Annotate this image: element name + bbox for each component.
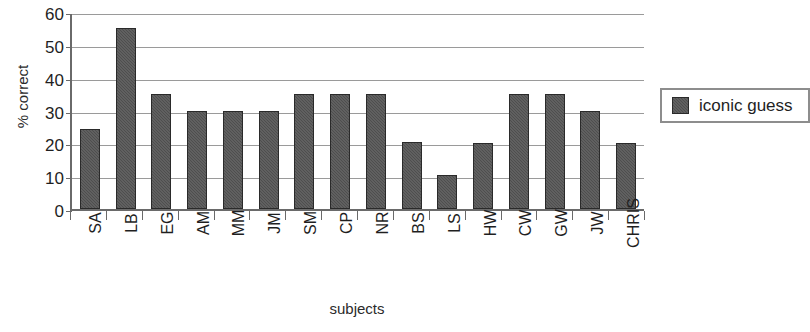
y-axis-tick-label: 60 [30, 6, 64, 23]
y-axis-tick-mark [66, 14, 72, 15]
x-label-slot: GW [536, 221, 572, 291]
x-axis-tick-mark [429, 211, 430, 220]
y-axis-tick-mark [66, 113, 72, 114]
x-label-slot: HW [465, 221, 501, 291]
bar [116, 28, 136, 209]
x-label-slot: JM [249, 221, 285, 291]
x-axis-tick-mark [536, 211, 537, 220]
x-axis-tick-mark [393, 211, 394, 220]
bar [330, 94, 350, 209]
y-axis-tick-mark [66, 47, 72, 48]
x-label-slot: SM [285, 221, 321, 291]
x-axis-tick-label: LS [447, 213, 463, 233]
x-label-slot: NR [357, 221, 393, 291]
bar [80, 129, 100, 209]
plot-area [70, 14, 644, 211]
bar-slot [251, 14, 287, 209]
x-axis-tick-label: LB [124, 213, 140, 233]
x-axis-tick-mark [572, 211, 573, 220]
bar-slot [501, 14, 537, 209]
x-axis-tick-label: SA [88, 212, 104, 233]
x-axis-tick-label: JM [267, 212, 283, 233]
bar-slot [287, 14, 323, 209]
bars-layer [72, 14, 644, 209]
bar [366, 94, 386, 209]
legend-swatch-icon [672, 97, 689, 114]
x-axis-tick-mark [106, 211, 107, 220]
bar [223, 111, 243, 210]
x-axis-tick-mark [357, 211, 358, 220]
x-axis-tick-label: BS [411, 212, 427, 233]
legend-label: iconic guess [699, 97, 793, 114]
bar [259, 111, 279, 210]
y-axis-tick-label: 50 [30, 39, 64, 56]
bar-slot [430, 14, 466, 209]
x-axis-tick-mark [465, 211, 466, 220]
x-axis-tick-mark [178, 211, 179, 220]
x-label-slot: CW [501, 221, 537, 291]
x-axis-tick-mark [285, 211, 286, 220]
x-label-slot: CP [321, 221, 357, 291]
y-axis-tick-label: 40 [30, 72, 64, 89]
x-axis-tick-mark [249, 211, 250, 220]
legend: iconic guess [660, 88, 810, 123]
bar-slot [144, 14, 180, 209]
x-axis-tick-label: CHRIS [626, 198, 642, 248]
bar [402, 142, 422, 209]
bar-slot [322, 14, 358, 209]
y-axis-tick-labels: 6050403020100 [28, 0, 64, 332]
y-axis-tick-label: 30 [30, 105, 64, 122]
y-axis-tick-label: 0 [30, 203, 64, 220]
bar-slot [537, 14, 573, 209]
bar [473, 143, 493, 209]
bar [437, 175, 457, 209]
x-axis-tick-label: NR [375, 211, 391, 234]
x-axis-tick-mark [70, 211, 71, 220]
x-axis-tick-label: GW [554, 209, 570, 237]
x-label-slot: JW [572, 221, 608, 291]
bar-slot [108, 14, 144, 209]
bar-slot [465, 14, 501, 209]
x-axis-tick-label: JW [590, 211, 606, 234]
x-axis-tick-mark [501, 211, 502, 220]
x-axis-tick-label: SM [303, 211, 319, 235]
bar [187, 111, 207, 210]
x-label-slot: MM [214, 221, 250, 291]
x-axis-tick-label: MM [231, 210, 247, 237]
bar-slot [394, 14, 430, 209]
bar [545, 94, 565, 209]
x-label-slot: CHRIS [608, 221, 644, 291]
x-label-slot: EG [142, 221, 178, 291]
y-axis-tick-label: 20 [30, 137, 64, 154]
x-label-slot: LB [106, 221, 142, 291]
x-axis-tick-mark [608, 211, 609, 220]
bar-slot [608, 14, 644, 209]
x-axis-tick-mark [644, 211, 645, 220]
x-axis-tick-mark [214, 211, 215, 220]
x-label-slot: AM [178, 221, 214, 291]
x-axis-tick-label: CW [518, 210, 534, 237]
y-axis-tick-mark [66, 80, 72, 81]
y-axis-tick-mark [66, 145, 72, 146]
x-axis-tick-labels: SALBEGAMMMJMSMCPNRBSLSHWCWGWJWCHRIS [70, 221, 644, 291]
y-axis-tick-mark [66, 178, 72, 179]
x-axis-tick-label: EG [160, 211, 176, 234]
x-axis-tick-label: CP [339, 212, 355, 234]
x-label-slot: LS [429, 221, 465, 291]
bar [509, 94, 529, 209]
bar-slot [573, 14, 609, 209]
bar-slot [358, 14, 394, 209]
bar-slot [72, 14, 108, 209]
x-label-slot: BS [393, 221, 429, 291]
bar-slot [179, 14, 215, 209]
bar [580, 111, 600, 210]
x-axis-title: subjects [70, 300, 644, 317]
x-axis-tick-label: AM [196, 211, 212, 235]
bar-slot [215, 14, 251, 209]
x-axis-tick-label: HW [483, 210, 499, 237]
bar [294, 94, 314, 209]
x-axis-tick-mark [321, 211, 322, 220]
x-axis-tick-mark [142, 211, 143, 220]
x-label-slot: SA [70, 221, 106, 291]
